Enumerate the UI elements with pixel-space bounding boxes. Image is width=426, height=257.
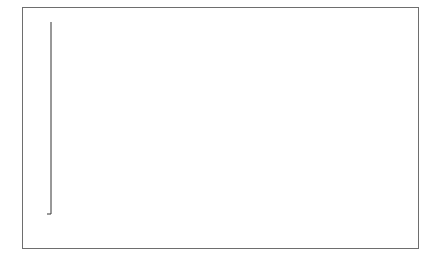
bar-chart xyxy=(0,0,426,257)
